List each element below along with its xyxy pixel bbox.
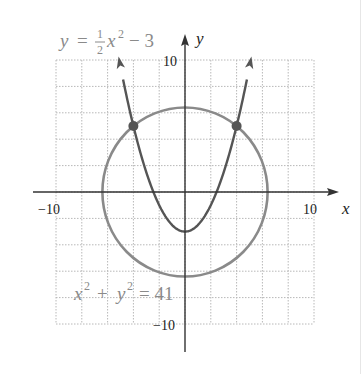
ceq-y: y bbox=[115, 283, 126, 304]
eq-equals: = bbox=[77, 30, 88, 51]
ceq-x-exponent: 2 bbox=[84, 279, 90, 293]
eq-exponent: 2 bbox=[118, 27, 124, 41]
y-tick-label-neg10: −10 bbox=[153, 318, 175, 333]
x-tick-label-neg10: −10 bbox=[38, 202, 60, 217]
eq-y: y bbox=[58, 30, 69, 51]
coordinate-plane: x y −10 10 10 −10 y = 1 2 x 2 − 3 x 2 + … bbox=[0, 0, 362, 374]
ceq-plus: + bbox=[97, 283, 108, 304]
ceq-equals-41: = 41 bbox=[139, 283, 173, 304]
x-tick-label-10: 10 bbox=[303, 202, 317, 217]
intersection-point bbox=[232, 121, 242, 131]
parabola-equation-label: y = 1 2 x 2 − 3 bbox=[58, 27, 154, 57]
eq-denominator: 2 bbox=[97, 43, 103, 57]
eq-numerator: 1 bbox=[97, 27, 103, 41]
eq-x: x bbox=[106, 30, 116, 51]
circle-equation-label: x 2 + y 2 = 41 bbox=[73, 279, 173, 304]
intersection-point bbox=[128, 121, 138, 131]
ceq-y-exponent: 2 bbox=[127, 279, 133, 293]
parabola-arrow-icon bbox=[245, 57, 253, 70]
y-axis-label: y bbox=[194, 29, 204, 48]
axes bbox=[33, 34, 339, 352]
x-axis-label: x bbox=[341, 199, 350, 218]
graph-figure: x y −10 10 10 −10 y = 1 2 x 2 − 3 x 2 + … bbox=[0, 0, 362, 374]
eq-minus-3: − 3 bbox=[129, 30, 154, 51]
page-edge-rule bbox=[360, 0, 361, 374]
ceq-x: x bbox=[73, 283, 83, 304]
y-tick-label-10: 10 bbox=[163, 54, 177, 69]
parabola-arrow-icon bbox=[117, 57, 125, 70]
